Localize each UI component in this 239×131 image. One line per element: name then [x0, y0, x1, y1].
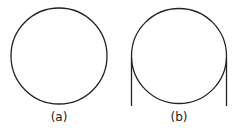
circle-b — [132, 9, 227, 104]
diagram-canvas — [0, 0, 239, 131]
circle-a — [11, 8, 107, 104]
caption-b: (b) — [159, 110, 199, 124]
caption-a: (a) — [39, 110, 79, 124]
